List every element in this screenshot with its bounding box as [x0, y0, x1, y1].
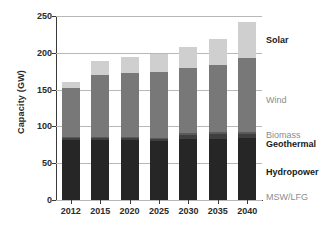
segment-wind-2035: [209, 65, 227, 133]
segment-solar-2035: [209, 39, 227, 65]
x-tick-mark-2020: [130, 200, 131, 204]
y-tick-mark-200: [52, 53, 56, 54]
segment-solar-2030: [179, 47, 197, 68]
x-tick-mark-2040: [247, 200, 248, 204]
segment-hydropower-2015: [91, 140, 109, 197]
bar-2025[interactable]: [150, 54, 168, 200]
segment-hydropower-2012: [62, 140, 80, 197]
x-tick-mark-2015: [100, 200, 101, 204]
y-tick-label-0: 0: [20, 196, 52, 204]
y-tick-label-100: 100: [20, 122, 52, 130]
bar-2012[interactable]: [62, 82, 80, 200]
x-tick-label-2040: 2040: [227, 206, 267, 216]
y-tick-mark-250: [52, 16, 56, 17]
segment-solar-2012: [62, 82, 80, 89]
y-tick-mark-150: [52, 90, 56, 91]
legend-label-hydropower: Hydropower: [266, 168, 319, 177]
segment-solar-2040: [238, 22, 256, 58]
legend-label-wind: Wind: [266, 96, 287, 105]
segment-hydropower-2020: [121, 140, 139, 197]
segment-hydropower-2030: [179, 139, 197, 198]
segment-wind-2012: [62, 88, 80, 137]
gridline-250: [56, 16, 262, 17]
y-tick-label-250: 250: [20, 12, 52, 20]
segment-wind-2040: [238, 58, 256, 132]
y-tick-mark-100: [52, 126, 56, 127]
legend-label-geothermal: Geothermal: [266, 140, 316, 149]
x-tick-mark-2035: [218, 200, 219, 204]
x-tick-mark-2025: [159, 200, 160, 204]
bar-2035[interactable]: [209, 39, 227, 200]
segment-wind-2030: [179, 68, 197, 134]
segment-hydropower-2025: [150, 141, 168, 198]
bar-2030[interactable]: [179, 47, 197, 200]
y-tick-label-50: 50: [20, 159, 52, 167]
segment-wind-2015: [91, 75, 109, 138]
segment-solar-2015: [91, 61, 109, 75]
segment-wind-2020: [121, 73, 139, 138]
segment-solar-2025: [150, 54, 168, 72]
y-tick-mark-50: [52, 163, 56, 164]
bar-2040[interactable]: [238, 22, 256, 200]
y-tick-label-150: 150: [20, 86, 52, 94]
legend-label-msw-lfg: MSW/LFG: [266, 193, 308, 202]
segment-wind-2025: [150, 72, 168, 138]
y-tick-label-200: 200: [20, 49, 52, 57]
segment-solar-2020: [121, 57, 139, 73]
plot-area: [56, 16, 262, 200]
stacked-bar-chart: Capacity (GW) 050100150200250 2012201520…: [0, 0, 327, 242]
segment-hydropower-2040: [238, 138, 256, 198]
bar-2015[interactable]: [91, 61, 109, 200]
y-tick-mark-0: [52, 200, 56, 201]
legend-label-solar: Solar: [266, 36, 289, 45]
x-tick-mark-2012: [71, 200, 72, 204]
bar-2020[interactable]: [121, 57, 139, 201]
segment-hydropower-2035: [209, 139, 227, 198]
x-tick-mark-2030: [188, 200, 189, 204]
